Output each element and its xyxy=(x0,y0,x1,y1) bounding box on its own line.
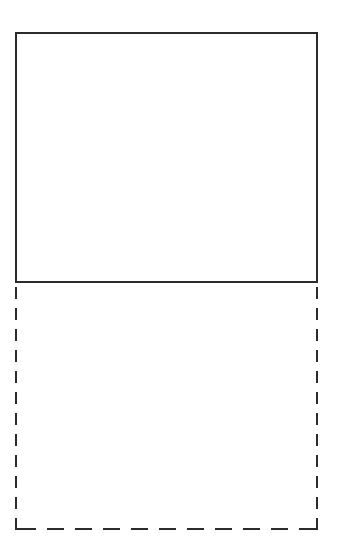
upper-solid-rectangle xyxy=(15,32,318,283)
dashed-corner-bottom-right-horizontal xyxy=(308,528,318,530)
lower-dashed-rectangle xyxy=(15,283,318,530)
dashed-edge-right xyxy=(316,287,318,526)
dashed-edge-left xyxy=(15,287,17,526)
dashed-corner-bottom-left-horizontal xyxy=(15,528,25,530)
dashed-edge-bottom xyxy=(19,528,314,530)
figure-canvas xyxy=(0,0,339,556)
